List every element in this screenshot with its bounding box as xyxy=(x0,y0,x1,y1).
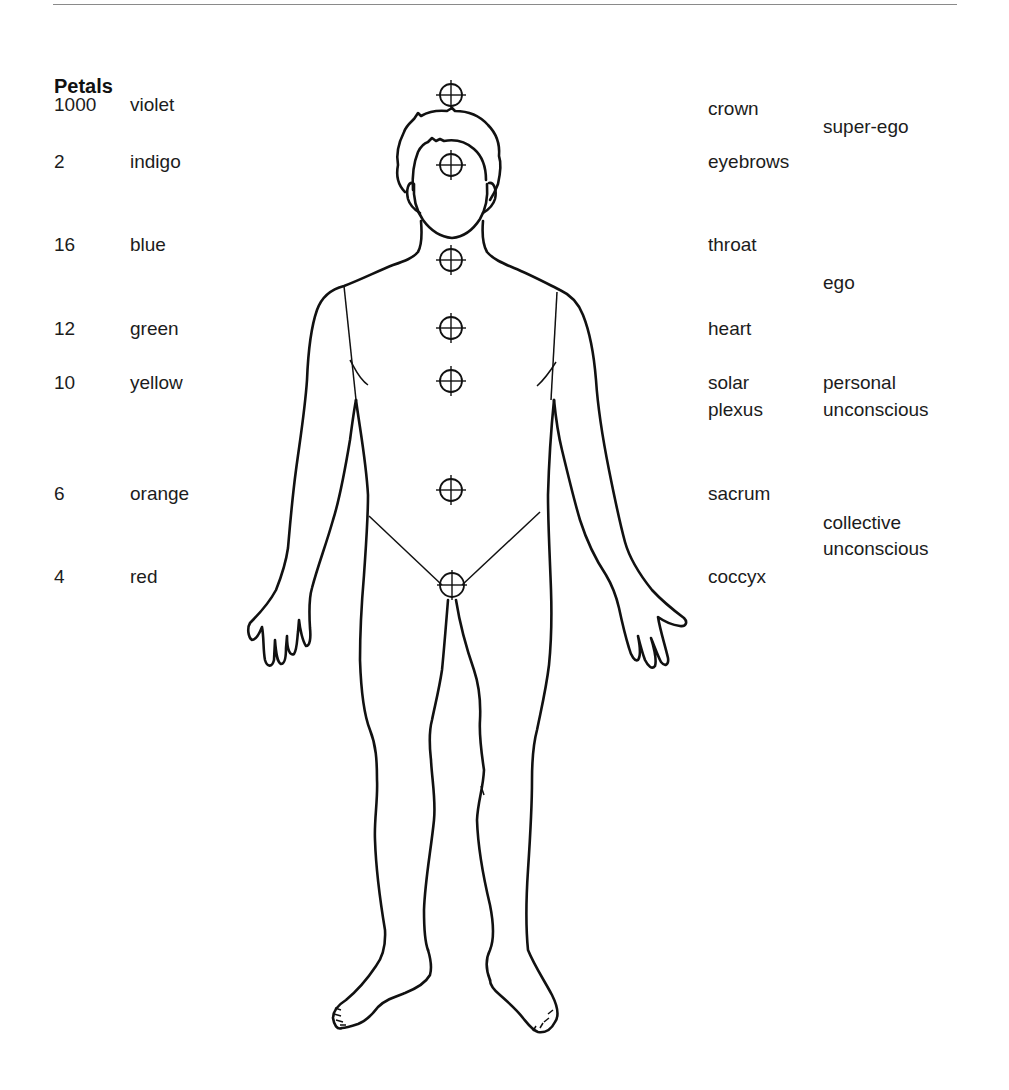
crosshair-icon-coccyx xyxy=(437,570,467,600)
right-arm-seam xyxy=(551,292,557,400)
right-body-contour xyxy=(483,221,686,668)
crosshair-icon-sacrum xyxy=(436,475,466,505)
groin-line-left xyxy=(369,516,442,585)
left-body-contour xyxy=(248,221,421,666)
crosshair-icon-solar-plexus xyxy=(436,366,466,396)
hair-fringe xyxy=(413,138,486,190)
groin-line-right xyxy=(462,512,540,585)
left-arm-seam xyxy=(344,286,356,400)
crosshair-icon-heart xyxy=(436,313,466,343)
crosshair-icon-crown xyxy=(436,80,466,110)
right-leg-outer xyxy=(490,400,558,1032)
left-leg-inner xyxy=(424,600,448,950)
crosshair-icon-eyebrows xyxy=(436,150,466,180)
right-leg-inner xyxy=(456,600,493,980)
crosshair-icon-throat xyxy=(436,245,466,275)
face xyxy=(414,184,487,238)
human-figure xyxy=(0,0,1009,1090)
figure-outline xyxy=(248,108,686,1032)
left-leg-outer xyxy=(333,400,431,1028)
